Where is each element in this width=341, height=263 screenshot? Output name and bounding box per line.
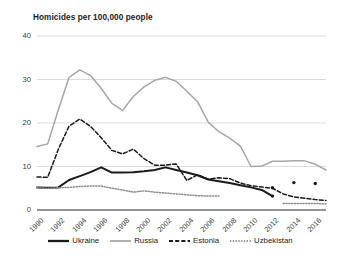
data-marker [292, 181, 295, 184]
data-marker [271, 186, 274, 189]
legend-item-ukraine[interactable]: Ukraine [48, 236, 99, 245]
y-axis-tick-label: 10 [11, 162, 31, 171]
chart-legend: UkraineRussiaEstoniaUzbekistan [0, 236, 341, 245]
legend-item-russia[interactable]: Russia [110, 236, 158, 245]
y-axis-tick-label: 0 [11, 205, 31, 214]
legend-item-uzbekistan[interactable]: Uzbekistan [230, 236, 293, 245]
homicide-rate-chart: Homicides per 100,000 people 010203040 1… [0, 0, 341, 263]
legend-swatch-russia [110, 237, 131, 245]
series-line-uzbekistan [37, 186, 219, 196]
legend-item-estonia[interactable]: Estonia [169, 236, 219, 245]
y-axis-tick-label: 20 [11, 118, 31, 127]
legend-label: Uzbekistan [254, 236, 293, 245]
series-lines [37, 70, 326, 204]
series-line-estonia [37, 119, 326, 200]
y-axis-tick-label: 30 [11, 75, 31, 84]
legend-swatch-estonia [169, 237, 190, 245]
data-marker [271, 194, 274, 197]
legend-label: Estonia [193, 236, 219, 245]
legend-label: Ukraine [72, 236, 99, 245]
legend-label: Russia [134, 236, 158, 245]
data-marker [314, 182, 317, 185]
data-point-markers [271, 181, 317, 198]
gridlines [37, 36, 326, 210]
y-axis-tick-label: 40 [11, 31, 31, 40]
legend-swatch-ukraine [48, 237, 69, 245]
legend-swatch-uzbekistan [230, 237, 251, 245]
